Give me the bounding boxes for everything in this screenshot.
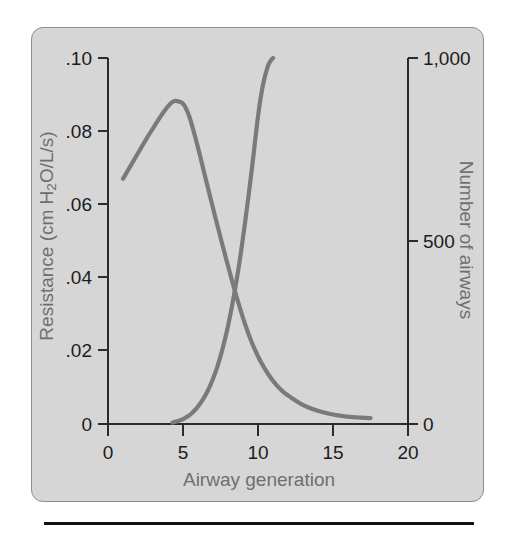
- y-left-axis-title: Resistance (cm H2O/L/s): [37, 131, 56, 340]
- y-left-tick-label-0.10: .10: [50, 49, 92, 68]
- y-right-tick-label-1000: 1,000: [423, 49, 471, 68]
- x-axis-title: Airway generation: [183, 470, 335, 489]
- y-left-axis-title-prefix: Resistance (cm H: [36, 191, 57, 341]
- y-left-axis-title-subscript: 2: [44, 183, 59, 191]
- x-tick-label-0: 0: [103, 443, 114, 462]
- x-tick-label-20: 20: [397, 443, 418, 462]
- y-right-tick-label-0: 0: [423, 415, 434, 434]
- x-tick-label-10: 10: [247, 443, 268, 462]
- x-tick-label-5: 5: [178, 443, 189, 462]
- y-left-axis-title-suffix: O/L/s): [36, 131, 57, 183]
- figure-root: .10 .08 .06 .04 .02 0 1,000 500 0 0 5 10…: [0, 0, 519, 538]
- chart-panel: [31, 27, 484, 502]
- footer-rule: [44, 522, 474, 525]
- y-right-axis-title: Number of airways: [457, 161, 476, 319]
- y-right-tick-label-500: 500: [423, 232, 455, 251]
- y-left-tick-label-0.02: .02: [50, 341, 92, 360]
- y-left-tick-label-0: 0: [50, 415, 92, 434]
- x-tick-label-15: 15: [322, 443, 343, 462]
